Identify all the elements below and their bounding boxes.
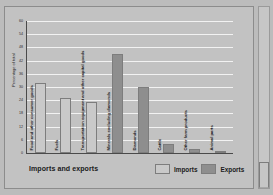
chart-figure: Percentage of total 06121824303642485460… [4, 6, 254, 189]
category-label: Animal parts [210, 126, 215, 151]
page-background: Percentage of total 06121824303642485460… [0, 0, 273, 195]
bar-group: Minerals excluding diamonds [112, 21, 123, 153]
bar-imports[interactable] [60, 98, 71, 153]
y-tick-label: 54 [19, 32, 23, 36]
y-tick-label: 6 [21, 138, 23, 142]
category-label: Food and other consumer goods [30, 86, 35, 151]
category-label: Fuels [56, 140, 61, 151]
side-panel-row [259, 162, 269, 188]
legend-label-exports: Exports [220, 166, 244, 173]
bar-imports[interactable] [35, 83, 46, 153]
bar-exports[interactable] [189, 149, 200, 153]
bar-exports[interactable] [163, 144, 174, 153]
y-tick-label: 0 [21, 151, 23, 155]
category-label: Transportation equipment and other capit… [82, 51, 87, 151]
plot-area: Food and other consumer goodsFuelsTransp… [26, 21, 233, 154]
side-panel-strip [258, 6, 270, 189]
bar-group: Fuels [60, 21, 71, 153]
bar-group: Food and other consumer goods [35, 21, 46, 153]
bar-imports[interactable] [86, 102, 97, 153]
y-axis-tick-labels: 06121824303642485460 [5, 21, 24, 153]
bar-exports[interactable] [138, 87, 149, 153]
legend-swatch-exports [201, 164, 216, 174]
bar-group: Transportation equipment and other capit… [86, 21, 97, 153]
bar-group: Cattle [163, 21, 174, 153]
category-label: Other farm products [185, 111, 190, 152]
bar-group: Animal parts [215, 21, 226, 153]
y-tick-label: 30 [19, 85, 23, 89]
y-tick-label: 42 [19, 59, 23, 63]
legend-swatch-imports [155, 164, 170, 174]
y-tick-label: 36 [19, 72, 23, 76]
y-tick-label: 60 [19, 19, 23, 23]
bar-group: Diamonds [138, 21, 149, 153]
category-label: Minerals excluding diamonds [107, 92, 112, 151]
bar-group: Other farm products [189, 21, 200, 153]
bar-exports[interactable] [112, 54, 123, 153]
category-label: Diamonds [133, 131, 138, 151]
y-tick-label: 18 [19, 111, 23, 115]
bar-series-group: Food and other consumer goodsFuelsTransp… [27, 21, 233, 153]
legend-label-imports: Imports [174, 166, 197, 173]
legend: Imports Exports [155, 164, 244, 174]
y-tick-label: 48 [19, 45, 23, 49]
y-tick-label: 12 [19, 125, 23, 129]
y-tick-label: 24 [19, 98, 23, 102]
bar-exports[interactable] [215, 151, 226, 153]
x-axis-title: Imports and exports [29, 165, 98, 172]
category-label: Cattle [159, 139, 164, 151]
